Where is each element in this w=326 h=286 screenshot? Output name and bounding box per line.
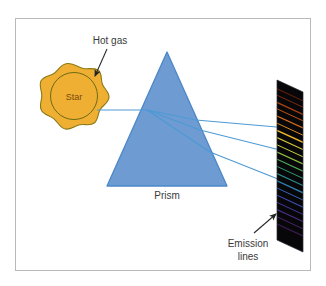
hot-gas-label: Hot gas <box>93 35 127 46</box>
diagram-figure: Star Hot <box>0 0 326 286</box>
emission-lines-label-line2: lines <box>238 251 259 262</box>
emission-lines-label-line1: Emission <box>228 238 269 249</box>
star-label: Star <box>66 92 83 102</box>
prism-label: Prism <box>154 190 180 201</box>
spectrum-screen <box>277 80 303 252</box>
diagram-canvas: Star Hot <box>0 0 326 286</box>
